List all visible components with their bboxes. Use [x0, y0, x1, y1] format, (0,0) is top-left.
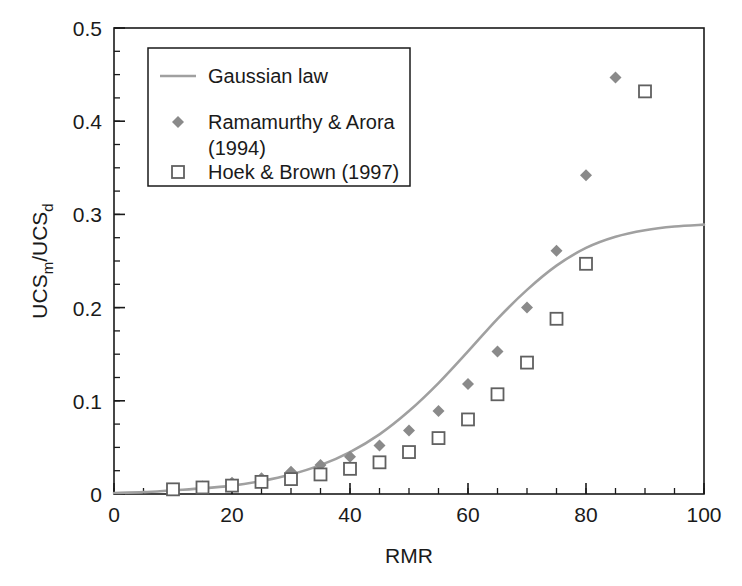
legend-label: Hoek & Brown (1997) [208, 161, 399, 183]
data-point-square [492, 388, 504, 400]
y-tick-label: 0.5 [73, 17, 102, 40]
x-tick-label: 60 [456, 503, 479, 526]
y-tick-label: 0.2 [73, 297, 102, 320]
y-tick-label: 0.3 [73, 203, 102, 226]
x-tick-label: 20 [220, 503, 243, 526]
data-point-square [315, 468, 327, 480]
data-point-square [256, 476, 268, 488]
x-axis-tick-labels: 020406080100 [108, 503, 721, 526]
x-tick-label: 40 [338, 503, 361, 526]
chart-figure: 020406080100 00.10.20.30.40.5 RMR UCSm/U… [0, 0, 742, 586]
data-point-square [403, 446, 415, 458]
y-axis-title-slash: /UCS [28, 212, 51, 262]
data-point-square [433, 432, 445, 444]
data-point-diamond [374, 440, 386, 452]
data-point-diamond [551, 245, 563, 257]
data-point-diamond [433, 405, 445, 417]
y-axis-title-main1: UCS [28, 274, 51, 318]
data-point-diamond [462, 378, 474, 390]
y-tick-label: 0.1 [73, 390, 102, 413]
data-point-diamond [403, 425, 415, 437]
y-axis-title-sub1: m [39, 262, 56, 275]
chart-legend: Gaussian lawRamamurthy & Arora(1994)Hoek… [148, 48, 410, 186]
data-point-square [226, 480, 238, 492]
data-point-diamond [521, 302, 533, 314]
data-point-square [521, 357, 533, 369]
x-axis-title: RMR [385, 544, 433, 567]
legend-label: Gaussian law [208, 65, 329, 87]
legend-label: Ramamurthy & Arora [208, 111, 396, 133]
data-point-square [551, 313, 563, 325]
x-tick-label: 80 [574, 503, 597, 526]
data-point-square [344, 463, 356, 475]
chart-svg: 020406080100 00.10.20.30.40.5 RMR UCSm/U… [0, 0, 742, 586]
data-point-square [374, 456, 386, 468]
data-point-square [462, 413, 474, 425]
x-tick-label: 0 [108, 503, 120, 526]
data-point-diamond [580, 169, 592, 181]
data-point-square [167, 483, 179, 495]
y-axis-title: UCSm/UCSd [28, 203, 56, 318]
data-point-diamond [492, 345, 504, 357]
data-point-square [197, 481, 209, 493]
x-tick-label: 100 [686, 503, 721, 526]
legend-marker-square [172, 166, 184, 178]
y-tick-label: 0 [90, 483, 102, 506]
y-tick-label: 0.4 [73, 110, 103, 133]
legend-label-continued: (1994) [208, 137, 266, 159]
data-point-diamond [344, 451, 356, 463]
data-point-square [639, 85, 651, 97]
y-axis-title-sub2: d [39, 203, 56, 211]
data-point-square [285, 473, 297, 485]
data-point-diamond [610, 71, 622, 83]
svg-text:UCSm/UCSd: UCSm/UCSd [28, 203, 56, 318]
data-point-square [580, 258, 592, 270]
y-axis-tick-labels: 00.10.20.30.40.5 [73, 17, 103, 506]
